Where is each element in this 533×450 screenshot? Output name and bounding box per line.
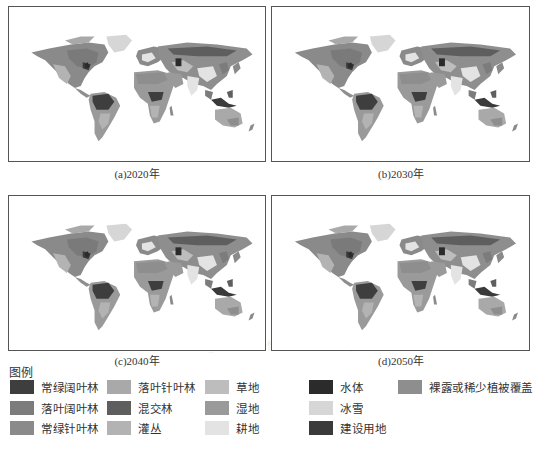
legend-label: 落叶阔叶林 [41,400,99,416]
legend-item-wetland: 湿地 [205,400,259,416]
caption-2020: (a)2020年 [77,165,197,181]
legend-label: 水体 [340,379,363,395]
legend-label: 湿地 [236,400,259,416]
legend-label: 耕地 [236,420,259,436]
legend-label: 常绿针叶林 [41,420,99,436]
legend-title: 图例 [9,363,33,380]
world-map-2040 [9,196,265,350]
legend-label: 裸露或稀少植被覆盖 [429,379,533,395]
map-panel-2050 [271,195,530,351]
swatch-wetland [205,401,229,415]
map-panel-2020 [8,6,266,162]
map-panel-2030 [271,6,530,162]
world-map-2020 [9,7,265,161]
legend-item-shrubland: 灌丛 [107,420,161,436]
swatch-grassland [205,380,229,394]
legend-item-grassland: 草地 [205,379,259,395]
caption-2040: (c)2040年 [77,352,197,368]
legend-label: 混交林 [138,400,173,416]
legend-item-built-up-land: 建设用地 [309,420,386,436]
world-map-2030 [272,7,529,161]
legend-item-deciduous-needleleaf-forest: 落叶针叶林 [107,379,196,395]
legend-item-evergreen-broadleaf-forest: 常绿阔叶林 [10,379,99,395]
map-panel-2040 [8,195,266,351]
legend-item-water: 水体 [309,379,363,395]
legend-item-cropland: 耕地 [205,420,259,436]
swatch-barren-sparse-vegetation [398,380,422,394]
legend-item-deciduous-broadleaf-forest: 落叶阔叶林 [10,400,99,416]
legend-item-barren-sparse-vegetation: 裸露或稀少植被覆盖 [398,379,533,395]
caption-2030: (b)2030年 [341,165,461,181]
legend-label: 建设用地 [340,420,386,436]
legend-label: 落叶针叶林 [138,379,196,395]
world-map-2050 [272,196,529,350]
swatch-water [309,380,333,394]
legend-item-snow-ice: 冰雪 [309,400,363,416]
swatch-deciduous-broadleaf-forest [10,401,34,415]
swatch-snow-ice [309,401,333,415]
legend-label: 常绿阔叶林 [41,379,99,395]
swatch-mixed-forest [107,401,131,415]
legend-item-mixed-forest: 混交林 [107,400,173,416]
swatch-evergreen-broadleaf-forest [10,380,34,394]
swatch-built-up-land [309,421,333,435]
legend-item-evergreen-needleleaf-forest: 常绿针叶林 [10,420,99,436]
swatch-cropland [205,421,229,435]
swatch-deciduous-needleleaf-forest [107,380,131,394]
legend-label: 冰雪 [340,400,363,416]
legend-label: 草地 [236,379,259,395]
swatch-shrubland [107,421,131,435]
caption-2050: (d)2050年 [341,352,461,368]
swatch-evergreen-needleleaf-forest [10,421,34,435]
legend-label: 灌丛 [138,420,161,436]
